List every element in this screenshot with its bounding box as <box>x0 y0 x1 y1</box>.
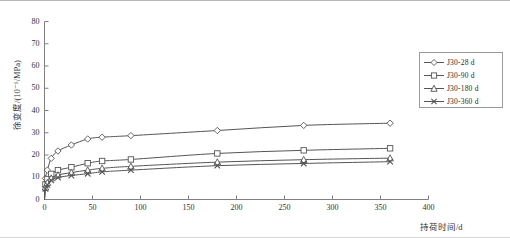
legend-label: J30-90 d <box>447 71 475 80</box>
x-tick-label: 400 <box>416 203 442 212</box>
y-tick-label: 10 <box>20 172 40 181</box>
x-tick-label: 50 <box>80 203 106 212</box>
y-tick-label: 20 <box>20 150 40 159</box>
y-tick-label: 30 <box>20 128 40 137</box>
y-tick-label: 60 <box>20 61 40 70</box>
x-tick-label: 350 <box>368 203 394 212</box>
series-j30-360-d <box>43 159 393 200</box>
x-tick-label: 150 <box>176 203 202 212</box>
chart-legend: J30-28 d J30-90 d J30-180 d J30-360 d <box>419 52 503 108</box>
x-tick-label: 0 <box>32 203 58 212</box>
legend-item[interactable]: J30-90 d <box>423 69 500 82</box>
x-axis-title: 持荷时间/d <box>420 220 463 232</box>
data-series-layer <box>42 120 393 200</box>
y-tick-label: 70 <box>20 39 40 48</box>
creep-chart-figure: 徐变度/(10⁻⁶/MPa) 持荷时间/d 010203040506070800… <box>0 0 510 238</box>
y-tick-label: 50 <box>20 83 40 92</box>
legend-marker-square-icon <box>423 70 445 81</box>
x-tick-label: 250 <box>272 203 298 212</box>
axis-ticks <box>45 22 429 200</box>
legend-label: J30-28 d <box>447 58 475 67</box>
axis-lines <box>45 22 429 200</box>
y-tick-label: 80 <box>20 17 40 26</box>
y-tick-label: 40 <box>20 106 40 115</box>
legend-marker-triangle-icon <box>423 83 445 94</box>
legend-label: J30-360 d <box>447 97 479 106</box>
x-tick-label: 100 <box>128 203 154 212</box>
legend-item[interactable]: J30-28 d <box>423 56 500 69</box>
legend-item[interactable]: J30-360 d <box>423 95 500 108</box>
x-tick-label: 300 <box>320 203 346 212</box>
legend-marker-x-icon <box>423 96 445 107</box>
legend-item[interactable]: J30-180 d <box>423 82 500 95</box>
legend-marker-diamond-icon <box>423 57 445 68</box>
legend-label: J30-180 d <box>447 84 479 93</box>
x-tick-label: 200 <box>224 203 250 212</box>
